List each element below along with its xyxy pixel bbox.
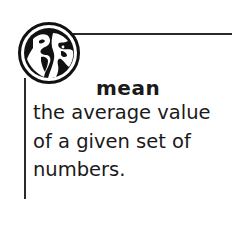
left-border-line bbox=[24, 78, 26, 199]
globe-icon bbox=[17, 21, 81, 85]
glossary-term: mean bbox=[96, 77, 160, 99]
definition-line: of a given set of bbox=[33, 128, 229, 157]
top-border-line bbox=[72, 33, 232, 35]
definition-line: numbers. bbox=[33, 156, 229, 185]
glossary-definition: the average value of a given set of numb… bbox=[33, 99, 229, 185]
definition-line: the average value bbox=[33, 99, 229, 128]
